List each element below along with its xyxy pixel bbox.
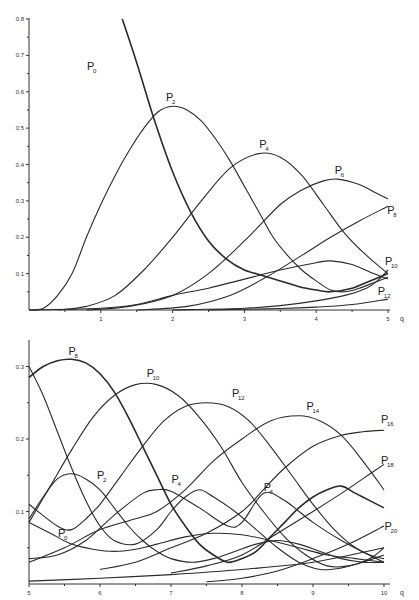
y-tick-label: 0.8	[16, 16, 25, 22]
x-tick-label: 8	[240, 590, 244, 596]
x-axis-label: q	[400, 589, 404, 597]
curve-label-subscript: 10	[391, 263, 398, 269]
x-axis-label: q	[400, 315, 404, 323]
x-tick-label: 3	[243, 316, 247, 322]
curve-label-p2: P2	[166, 91, 176, 105]
curve-label-subscript: 8	[75, 353, 79, 359]
y-tick-label: 0.1	[16, 271, 25, 277]
x-tick-label: 1	[99, 316, 103, 322]
curve-label-subscript: 20	[391, 528, 398, 534]
curve-label-subscript: 8	[393, 212, 397, 218]
x-tick-label: 2	[171, 316, 175, 322]
curve-label-subscript: 12	[384, 293, 391, 299]
bottom-chart-panel: 0.10.20.35678910qP8P10P12P14P16P18P2P4P6…	[16, 340, 404, 597]
curve-label-p8: P8	[69, 345, 79, 359]
curve-p2	[29, 106, 388, 310]
curve-label-p16: P16	[381, 413, 394, 427]
x-tick-label: 6	[98, 590, 102, 596]
curve-p4	[58, 153, 388, 310]
curve-label-subscript: 14	[312, 408, 319, 414]
curve-p8	[29, 359, 384, 562]
curve-label-p2: P2	[97, 469, 107, 483]
curve-label-subscript: 16	[387, 421, 394, 427]
curve-p10	[29, 383, 384, 567]
curve-p18	[171, 464, 384, 573]
y-tick-label: 0.3	[16, 198, 25, 204]
curve-label-subscript: 12	[238, 395, 245, 401]
curve-label-p6: P6	[335, 164, 345, 178]
x-tick-label: 4	[315, 316, 319, 322]
y-tick-label: 0.2	[16, 234, 25, 240]
curve-label-subscript: 2	[172, 99, 176, 105]
curve-p10	[29, 261, 388, 310]
curve-label-subscript: 6	[341, 172, 345, 178]
curve-label-p10: P10	[147, 367, 160, 381]
curve-label-p6: P6	[264, 481, 274, 495]
curve-label-p4: P4	[172, 473, 182, 487]
x-tick-label: 10	[381, 590, 388, 596]
figure: 0.10.20.30.40.50.60.70.812345qP0P2P4P6P8…	[0, 0, 419, 600]
curve-label-subscript: 4	[265, 146, 269, 152]
y-tick-label: 0.1	[16, 509, 25, 515]
curve-label-subscript: 0	[93, 68, 97, 74]
curve-label-subscript: 18	[387, 462, 394, 468]
curve-label-p0: P0	[58, 527, 68, 541]
y-tick-label: 0.4	[16, 162, 25, 168]
x-tick-label: 5	[386, 316, 390, 322]
curve-label-subscript: 0	[64, 535, 68, 541]
y-tick-label: 0.2	[16, 436, 25, 442]
x-tick-label: 7	[169, 590, 173, 596]
curve-p22	[29, 548, 384, 581]
curve-label-p4: P4	[259, 138, 269, 152]
curve-label-p8: P8	[387, 204, 397, 218]
curve-label-p10: P10	[385, 255, 398, 269]
x-tick-label: 5	[27, 590, 31, 596]
curve-label-p14: P14	[306, 400, 319, 414]
y-tick-label: 0.3	[16, 364, 25, 370]
y-tick-label: 0.7	[16, 52, 25, 58]
curve-label-p20: P20	[385, 520, 398, 534]
curve-label-p12: P12	[378, 285, 391, 299]
curve-p0	[122, 19, 388, 292]
curve-label-subscript: 4	[178, 481, 182, 487]
curve-label-p18: P18	[381, 454, 394, 468]
curve-label-p0: P0	[87, 60, 97, 74]
curve-label-subscript: 2	[103, 477, 107, 483]
top-chart-panel: 0.10.20.30.40.50.60.70.812345qP0P2P4P6P8…	[16, 16, 404, 323]
y-tick-label: 0.5	[16, 125, 25, 131]
y-tick-label: 0.6	[16, 89, 25, 95]
x-tick-label: 9	[311, 590, 315, 596]
curve-label-subscript: 10	[153, 375, 160, 381]
curve-label-p12: P12	[232, 387, 245, 401]
